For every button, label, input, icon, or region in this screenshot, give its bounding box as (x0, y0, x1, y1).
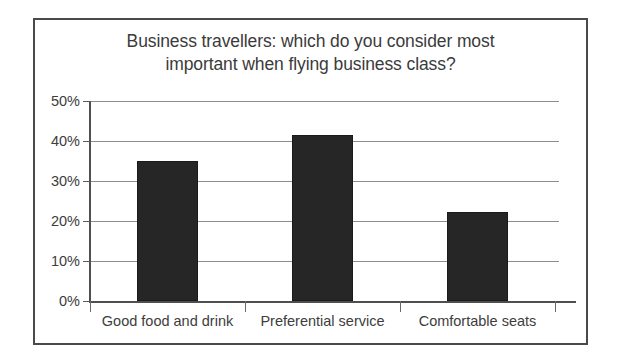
y-tick-label-0: 0% (59, 293, 80, 309)
gridline-50 (89, 101, 559, 102)
category-tick-1 (245, 301, 246, 312)
y-tick-label-10: 10% (51, 253, 80, 269)
y-tick-mark-10 (83, 261, 90, 262)
y-tick-label-50: 50% (51, 93, 80, 109)
y-tick-mark-40 (83, 141, 90, 142)
category-label-comfortable-seats: Comfortable seats (400, 313, 555, 329)
plot-area (89, 101, 559, 301)
y-tick-label-30: 30% (51, 173, 80, 189)
y-tick-label-20: 20% (51, 213, 80, 229)
bar-preferential-service (292, 135, 353, 301)
x-axis-line (89, 301, 576, 303)
y-tick-label-40: 40% (51, 133, 80, 149)
y-tick-mark-0 (83, 301, 90, 302)
chart-title: Business travellers: which do you consid… (35, 30, 586, 76)
category-label-preferential-service: Preferential service (245, 313, 400, 329)
y-tick-mark-20 (83, 221, 90, 222)
y-axis-line (89, 101, 91, 302)
chart-frame: Business travellers: which do you consid… (33, 18, 588, 345)
bar-comfortable-seats (447, 212, 508, 301)
category-tick-2 (400, 301, 401, 312)
bar-good-food-and-drink (137, 161, 198, 301)
category-tick-end (555, 301, 556, 312)
category-tick-start (90, 301, 91, 312)
y-tick-mark-30 (83, 181, 90, 182)
category-label-good-food-and-drink: Good food and drink (90, 313, 245, 329)
y-tick-mark-50 (83, 101, 90, 102)
